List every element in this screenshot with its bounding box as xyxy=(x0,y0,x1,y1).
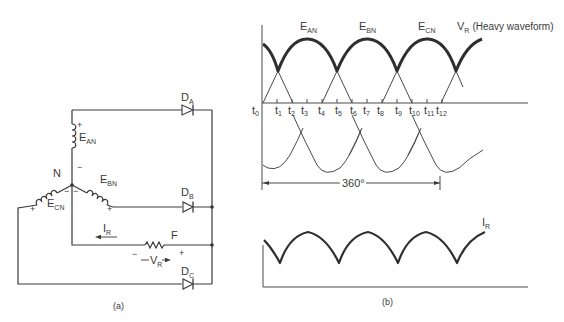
svg-text:t7: t7 xyxy=(363,104,370,117)
vr-minus: − xyxy=(132,249,137,259)
caption-b: (b) xyxy=(382,297,393,307)
vr-plus: + xyxy=(179,248,184,258)
vr-heavy-waveform xyxy=(263,39,482,71)
caption-a: (a) xyxy=(113,301,124,311)
coil-ebn-icon xyxy=(87,190,108,205)
resistor-f-icon xyxy=(145,242,164,248)
svg-text:t10: t10 xyxy=(409,104,420,117)
svg-text:t3: t3 xyxy=(301,104,308,117)
svg-text:t12: t12 xyxy=(436,104,447,117)
ebn-plus: + xyxy=(107,204,112,214)
svg-text:t11: t11 xyxy=(424,104,434,117)
diode-b-icon xyxy=(183,202,193,213)
svg-text:t4: t4 xyxy=(318,104,325,117)
label-ean: EAN xyxy=(79,131,96,145)
svg-text:t0: t0 xyxy=(252,104,259,117)
diode-c-icon xyxy=(183,279,193,290)
svg-text:t9: t9 xyxy=(395,104,402,117)
label-vr-heavy: VR(Heavy waveform) xyxy=(457,20,554,34)
svg-text:t5: t5 xyxy=(335,104,342,117)
label-dc: DC xyxy=(181,265,194,279)
label-curve-ebn: EBN xyxy=(359,20,376,34)
ean-plus: + xyxy=(77,120,82,130)
phase-sinusoids xyxy=(263,71,483,172)
ean-minus: − xyxy=(77,162,82,172)
label-curve-ean: EAN xyxy=(300,20,317,34)
label-curve-ecn: ECN xyxy=(418,20,435,34)
svg-text:t8: t8 xyxy=(377,104,384,117)
coil-ean-icon xyxy=(72,124,76,148)
svg-text:t6: t6 xyxy=(350,104,357,117)
ecn-plus: + xyxy=(30,204,35,214)
label-ir: IR xyxy=(103,222,111,236)
label-ecn: ECN xyxy=(47,197,64,211)
circuit-labels: DA DB DC EAN + − N EBN − + ECN − + IR F … xyxy=(30,91,194,311)
ir-waveform xyxy=(264,232,485,263)
waveform-chart: 360° xyxy=(262,25,528,287)
svg-text:t1: t1 xyxy=(275,104,282,117)
current-axes xyxy=(263,245,528,287)
label-vr: VR xyxy=(150,254,162,268)
label-da: DA xyxy=(181,91,194,105)
diode-a-icon xyxy=(182,105,193,116)
ecn-minus: − xyxy=(64,186,69,196)
period-label: 360° xyxy=(342,177,365,189)
label-neutral: N xyxy=(53,167,61,179)
svg-text:t2: t2 xyxy=(288,104,295,117)
time-tick-labels: t0 t1 t2 t3 t4 t5 t6 t7 t8 t9 t10 t11 t1… xyxy=(252,104,447,117)
label-ebn: EBN xyxy=(100,173,117,187)
label-f: F xyxy=(171,229,178,241)
ebn-minus: − xyxy=(73,186,78,196)
time-ticks xyxy=(277,99,442,103)
figure-canvas: DA DB DC EAN + − N EBN − + ECN − + IR F … xyxy=(0,0,564,322)
label-db: DB xyxy=(181,186,194,200)
label-ir-curve: IR xyxy=(482,216,490,230)
